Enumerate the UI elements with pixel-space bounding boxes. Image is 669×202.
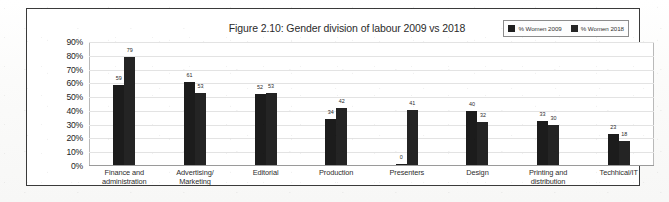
- bar-value-label: 53: [197, 84, 203, 89]
- bar-value-label: 32: [480, 113, 486, 118]
- bar-value-label: 30: [551, 116, 557, 121]
- x-axis-category-label: Editorial: [230, 169, 301, 193]
- bar-value-label: 23: [610, 125, 616, 130]
- bar: 52: [255, 94, 266, 166]
- figure-screenshot: Figure 2.10: Gender division of labour 2…: [0, 0, 669, 202]
- legend-item-women-2009: % Women 2009: [508, 25, 561, 32]
- figure-frame: Figure 2.10: Gender division of labour 2…: [26, 8, 640, 186]
- y-axis-tick-label: 40%: [66, 106, 83, 116]
- bar: 32: [477, 122, 488, 166]
- bar-value-label: 41: [409, 101, 415, 106]
- bar-groups: 5979615352533442041403233302318: [89, 42, 654, 166]
- bar-group: 2318: [583, 42, 654, 166]
- x-axis-category-label: Finance and administration: [89, 169, 160, 193]
- bar-value-label: 79: [127, 48, 133, 53]
- legend-label: % Women 2018: [581, 25, 624, 32]
- bar: 53: [195, 93, 206, 166]
- bar-group: 6153: [160, 42, 231, 166]
- x-axis-labels: Finance and administrationAdvertising/ M…: [89, 169, 654, 193]
- legend-swatch-icon: [508, 25, 515, 32]
- bar: 61: [184, 82, 195, 166]
- bar-value-label: 52: [257, 85, 263, 90]
- x-axis-category-label: Techhical/IT: [583, 169, 654, 193]
- legend-swatch-icon: [571, 25, 578, 32]
- bar-value-label: 42: [339, 99, 345, 104]
- bar-value-label: 0: [400, 155, 403, 160]
- bar-value-label: 61: [186, 73, 192, 78]
- bar-group: 5253: [230, 42, 301, 166]
- bar: 59: [113, 85, 124, 166]
- y-axis-tick-label: 80%: [66, 51, 83, 61]
- bar-value-label: 40: [469, 102, 475, 107]
- bar-value-label: 18: [621, 132, 627, 137]
- bar: 42: [336, 108, 347, 166]
- bar: 34: [325, 119, 336, 166]
- bar: 53: [266, 93, 277, 166]
- x-axis-category-label: Design: [442, 169, 513, 193]
- bar-group: 041: [372, 42, 443, 166]
- x-axis-category-label: Advertising/ Marketing: [160, 169, 231, 193]
- x-axis-category-label: Production: [301, 169, 372, 193]
- y-axis-tick-label: 30%: [66, 120, 83, 130]
- y-axis-labels: 90%80%70%60%50%40%30%20%10%0%: [49, 42, 85, 166]
- plot-area-wrapper: 5979615352533442041403233302318: [89, 42, 654, 166]
- bar: 23: [608, 134, 619, 166]
- bar: 18: [619, 141, 630, 166]
- legend-label: % Women 2009: [518, 25, 561, 32]
- y-axis-tick-label: 90%: [66, 37, 83, 47]
- y-axis-tick-label: 50%: [66, 92, 83, 102]
- x-axis-line: [89, 165, 654, 166]
- bar-group: 4032: [442, 42, 513, 166]
- bar: 40: [466, 111, 477, 166]
- bar: 41: [407, 110, 418, 166]
- y-axis-tick-label: 60%: [66, 78, 83, 88]
- x-axis-category-label: Printing and distribution: [513, 169, 584, 193]
- y-axis-tick-label: 10%: [66, 147, 83, 157]
- x-axis-category-label: Presenters: [372, 169, 443, 193]
- chart-legend: % Women 2009 % Women 2018: [503, 20, 629, 37]
- bar-group: 3330: [513, 42, 584, 166]
- bar-value-label: 33: [540, 112, 546, 117]
- legend-item-women-2018: % Women 2018: [571, 25, 624, 32]
- bar-group: 5979: [89, 42, 160, 166]
- y-axis-tick-label: 0%: [71, 161, 83, 171]
- bar-group: 3442: [301, 42, 372, 166]
- bar-value-label: 53: [268, 84, 274, 89]
- bar-value-label: 34: [328, 110, 334, 115]
- bar: 79: [124, 57, 135, 166]
- y-axis-tick-label: 70%: [66, 65, 83, 75]
- y-axis-tick-label: 20%: [66, 133, 83, 143]
- chart-title: Figure 2.10: Gender division of labour 2…: [147, 22, 547, 34]
- bar: 30: [548, 125, 559, 166]
- bar: 33: [537, 121, 548, 166]
- bar-value-label: 59: [116, 76, 122, 81]
